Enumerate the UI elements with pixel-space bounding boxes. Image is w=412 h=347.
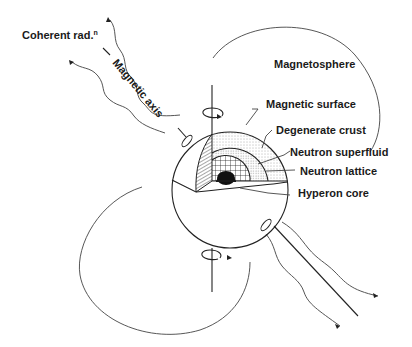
label-hyperon-core: Hyperon core [298,187,369,199]
label-neutron-lattice: Neutron lattice [300,165,377,177]
label-magnetic-surface: Magnetic surface [266,98,356,110]
label-degenerate-crust: Degenerate crust [276,124,366,136]
radiation-wave-icon [266,222,378,329]
label-coherent-radiation: Coherent rad.n [22,29,98,41]
label-neutron-superfluid: Neutron superfluid [290,146,388,158]
neutron-star-sphere [172,131,288,248]
label-magnetic-axis: Magnetic axis [110,57,166,120]
neutron-star-diagram: Coherent rad.n Magnetic axis Magnetosphe… [0,0,412,347]
label-magnetosphere: Magnetosphere [274,58,355,70]
